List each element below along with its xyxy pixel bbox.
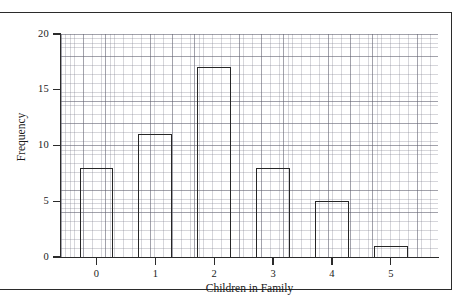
x-tick-label-4: 4: [317, 268, 347, 279]
y-tick-label-10: 10: [38, 140, 49, 151]
plot-area: [61, 34, 438, 257]
bar-5: [374, 246, 408, 257]
y-tick-label-20: 20: [38, 29, 49, 40]
x-tick-mark-3: [272, 258, 273, 265]
x-tick-mark-5: [390, 258, 391, 265]
y-axis-line: [60, 33, 61, 258]
y-tick-mark-10: [53, 145, 60, 146]
x-axis-line: [60, 257, 439, 258]
x-tick-label-0: 0: [81, 268, 111, 279]
x-tick-label-1: 1: [140, 268, 170, 279]
y-tick-label-5: 5: [44, 196, 49, 207]
x-tick-mark-0: [96, 258, 97, 265]
x-tick-label-2: 2: [199, 268, 229, 279]
y-tick-label-0: 0: [44, 252, 49, 263]
bar-3: [256, 168, 290, 257]
y-axis-title: Frequency: [15, 92, 27, 182]
x-tick-label-5: 5: [376, 268, 406, 279]
y-tick-mark-20: [53, 33, 60, 34]
y-tick-label-15: 15: [38, 84, 49, 95]
x-tick-mark-2: [214, 258, 215, 265]
y-tick-mark-5: [53, 201, 60, 202]
x-tick-label-3: 3: [258, 268, 288, 279]
x-tick-mark-1: [155, 258, 156, 265]
histogram-figure: 05101520 012345 Children in Family Frequ…: [0, 0, 468, 301]
bar-2: [197, 67, 231, 257]
x-axis-title: Children in Family: [61, 282, 438, 294]
bar-4: [315, 201, 349, 257]
bar-0: [80, 168, 114, 257]
bar-1: [138, 134, 172, 257]
y-tick-mark-0: [53, 256, 60, 257]
x-tick-mark-4: [331, 258, 332, 265]
y-tick-mark-15: [53, 89, 60, 90]
